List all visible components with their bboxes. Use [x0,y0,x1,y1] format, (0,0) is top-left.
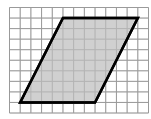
grid-figure [0,0,151,119]
